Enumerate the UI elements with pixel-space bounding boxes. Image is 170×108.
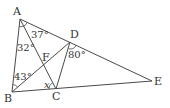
angle-arc-a-right (24, 22, 28, 26)
angle-label-adc: 80° (68, 49, 86, 60)
angle-label-x: x (44, 79, 50, 90)
point-label-a: A (12, 5, 22, 18)
segment-be (12, 81, 152, 92)
point-label-e: E (154, 75, 162, 88)
geometry-figure: A B C D E F 37° 32° 43° 80° x (0, 0, 170, 108)
angle-label-bac: 32° (17, 42, 35, 53)
point-label-f: F (42, 51, 50, 64)
angle-label-abd: 43° (14, 71, 32, 82)
point-label-d: D (70, 28, 79, 41)
angle-arc-b (13, 85, 18, 88)
angle-label-dac: 37° (31, 29, 49, 40)
point-label-c: C (52, 90, 60, 103)
point-label-b: B (4, 92, 12, 105)
